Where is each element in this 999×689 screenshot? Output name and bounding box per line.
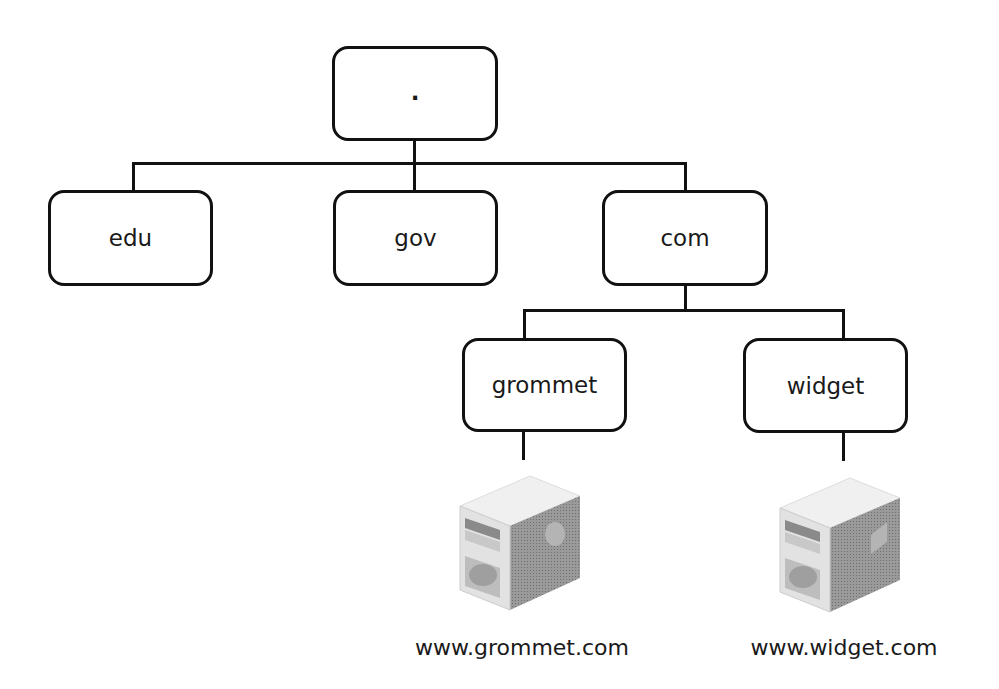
node-root: .: [332, 46, 498, 141]
connector-level1-bus: [132, 162, 687, 165]
server-widget-label: www.widget.com: [722, 635, 966, 660]
connector-widget: [842, 309, 845, 340]
connector-com: [684, 162, 687, 192]
node-com-label: com: [660, 225, 709, 251]
node-grommet: grommet: [462, 338, 627, 432]
server-icon: [775, 470, 910, 615]
connector-gov: [413, 162, 416, 192]
connector-level2-bus: [523, 309, 845, 312]
connector-widget-server: [842, 431, 845, 461]
node-edu-label: edu: [109, 225, 152, 251]
server-icon: [455, 468, 590, 613]
server-grommet-label: www.grommet.com: [400, 635, 644, 660]
connector-grommet: [523, 309, 526, 340]
node-gov-label: gov: [394, 225, 436, 251]
node-edu: edu: [48, 190, 213, 286]
connector-edu: [132, 162, 135, 192]
connector-grommet-server: [522, 430, 525, 460]
node-gov: gov: [333, 190, 498, 286]
connector-com-down: [684, 283, 687, 311]
connector-root-down: [413, 138, 416, 165]
node-com: com: [602, 190, 768, 286]
node-widget: widget: [743, 338, 908, 433]
node-grommet-label: grommet: [492, 372, 598, 398]
node-root-label: .: [411, 79, 420, 105]
node-widget-label: widget: [787, 373, 865, 399]
